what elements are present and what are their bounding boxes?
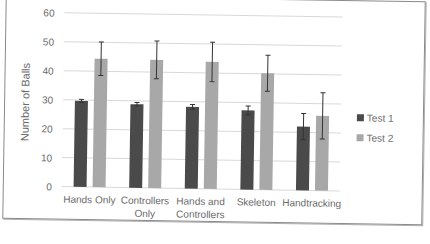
bars — [74, 40, 331, 191]
y-tick-label: 0 — [46, 181, 52, 192]
y-axis-ticks: 0102030405060 — [41, 7, 55, 192]
y-tick-label: 40 — [42, 65, 54, 76]
gridline — [65, 13, 343, 17]
bar-test2 — [204, 62, 219, 189]
x-tick-label: Hands Only — [63, 194, 115, 206]
error-bar — [101, 42, 102, 76]
legend-swatch-test1 — [357, 114, 364, 121]
x-tick-label: Skeleton — [237, 196, 276, 208]
y-tick-label: 50 — [43, 36, 55, 47]
error-bar — [212, 42, 213, 81]
legend-label-test1: Test 1 — [367, 112, 394, 123]
bar-test2 — [259, 73, 274, 190]
bar-test1 — [185, 107, 199, 189]
bar-test1 — [74, 101, 88, 187]
x-tick-label: Handtracking — [282, 197, 341, 209]
error-bar — [267, 55, 268, 91]
bar-test2 — [93, 59, 108, 188]
bar-chart: 0102030405060 Number of Balls Hands Only… — [3, 0, 424, 224]
legend-swatch-test2 — [357, 134, 364, 141]
y-tick-label: 20 — [41, 123, 53, 134]
legend: Test 1 Test 2 — [356, 112, 394, 144]
gridline — [64, 42, 342, 46]
y-tick-label: 60 — [43, 7, 55, 18]
x-tick-label: Only — [134, 208, 155, 219]
x-axis-labels: Hands OnlyControllersOnlyHands andContro… — [63, 194, 341, 222]
error-bar — [156, 41, 157, 79]
chart-frame: 0102030405060 Number of Balls Hands Only… — [2, 0, 425, 225]
legend-label-test2: Test 2 — [366, 132, 393, 143]
y-tick-label: 30 — [42, 94, 54, 105]
bar-test1 — [240, 110, 254, 189]
x-tick-label: Controllers — [176, 208, 225, 220]
x-tick-label: Controllers — [121, 195, 170, 207]
y-axis-label: Number of Balls — [18, 62, 31, 141]
y-tick-label: 10 — [41, 152, 53, 163]
x-tick-label: Hands and — [176, 195, 225, 207]
bar-test1 — [129, 104, 143, 188]
